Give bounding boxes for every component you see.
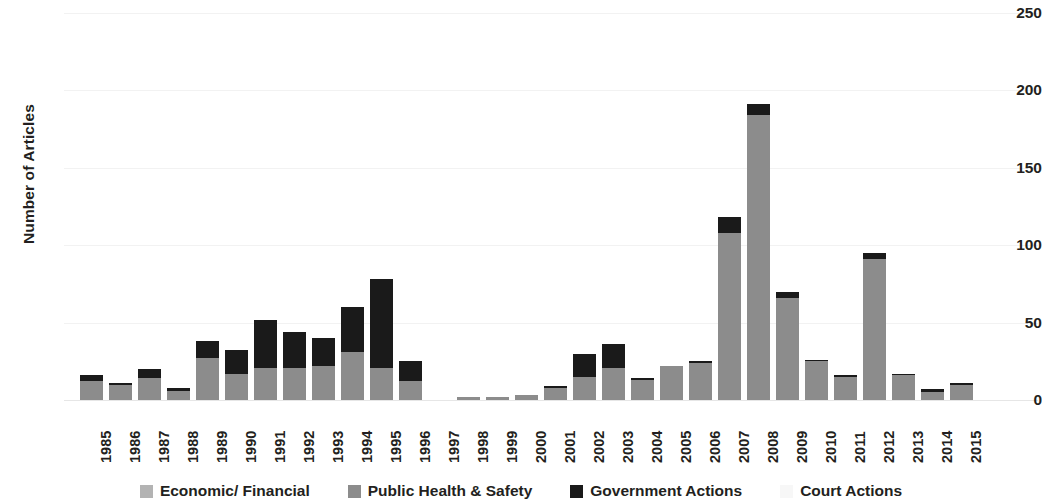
x-tick-label: 1995 <box>388 401 404 463</box>
bar-segment <box>747 115 770 400</box>
bar-segment <box>225 374 248 400</box>
x-tick-label: 2012 <box>881 401 897 463</box>
legend-item[interactable]: Economic/ Financial <box>140 482 310 500</box>
legend-item[interactable]: Court Actions <box>780 482 902 500</box>
bar-segment <box>370 368 393 401</box>
legend-label: Economic/ Financial <box>160 482 310 500</box>
bar-2009 <box>776 292 799 400</box>
bar-segment <box>950 385 973 400</box>
legend-item[interactable]: Public Health & Safety <box>348 482 533 500</box>
bar-segment <box>399 381 422 400</box>
bar-segment <box>602 344 625 367</box>
legend-item[interactable]: Government Actions <box>570 482 742 500</box>
bar-segment <box>457 397 480 400</box>
bar-segment <box>892 375 915 400</box>
bar-2010 <box>805 360 828 400</box>
bar-segment <box>283 368 306 401</box>
bar-1990 <box>225 350 248 400</box>
x-tick-label: 1992 <box>301 401 317 463</box>
x-tick-label: 2003 <box>620 401 636 463</box>
bar-2000 <box>515 395 538 400</box>
bar-segment <box>196 341 219 358</box>
x-tick-label: 2013 <box>910 401 926 463</box>
bar-1996 <box>399 361 422 400</box>
bar-2006 <box>689 361 712 400</box>
x-tick-label: 2009 <box>794 401 810 463</box>
legend-label: Public Health & Safety <box>368 482 533 500</box>
bar-segment <box>631 380 654 400</box>
bar-segment <box>283 332 306 368</box>
stacked-bar-chart: Number of Articles 050100150200250 19851… <box>0 0 1042 502</box>
bar-segment <box>660 366 683 400</box>
bar-segment <box>805 361 828 400</box>
bar-segment <box>254 368 277 401</box>
bar-1989 <box>196 341 219 400</box>
bar-segment <box>312 338 335 366</box>
bar-2005 <box>660 366 683 400</box>
bar-segment <box>196 358 219 400</box>
legend-swatch-icon <box>140 485 153 498</box>
legend-swatch-icon <box>780 485 793 498</box>
x-tick-label: 1998 <box>475 401 491 463</box>
bar-2015 <box>950 383 973 400</box>
bar-segment <box>515 395 538 400</box>
bar-1995 <box>370 279 393 400</box>
x-axis-tick-labels: 1985198619871988198919901991199219931994… <box>64 405 1038 467</box>
x-tick-label: 1997 <box>446 401 462 463</box>
bar-segment <box>254 320 277 368</box>
bar-segment <box>544 388 567 400</box>
x-tick-label: 2007 <box>736 401 752 463</box>
x-tick-label: 2002 <box>591 401 607 463</box>
x-tick-label: 1989 <box>214 401 230 463</box>
bar-2014 <box>921 389 944 400</box>
x-tick-label: 1987 <box>156 401 172 463</box>
x-tick-label: 2010 <box>823 401 839 463</box>
bar-segment <box>863 259 886 400</box>
bar-2012 <box>863 253 886 400</box>
bar-segment <box>834 377 857 400</box>
y-axis-title: Number of Articles <box>20 89 38 259</box>
bar-2007 <box>718 217 741 400</box>
bar-segment <box>138 369 161 378</box>
bar-2013 <box>892 374 915 400</box>
bar-1999 <box>486 397 509 400</box>
chart-legend: Economic/ FinancialPublic Health & Safet… <box>0 482 1042 500</box>
bar-segment <box>312 366 335 400</box>
bar-segment <box>689 363 712 400</box>
bar-segment <box>80 381 103 400</box>
x-tick-label: 1994 <box>359 401 375 463</box>
x-tick-label: 2004 <box>649 401 665 463</box>
legend-label: Court Actions <box>800 482 902 500</box>
x-tick-label: 1986 <box>127 401 143 463</box>
x-tick-label: 2014 <box>939 401 955 463</box>
bar-2011 <box>834 375 857 400</box>
x-tick-label: 2011 <box>852 401 868 463</box>
bar-1992 <box>283 332 306 400</box>
x-tick-label: 2015 <box>968 401 984 463</box>
x-tick-label: 1985 <box>98 401 114 463</box>
x-tick-label: 2000 <box>533 401 549 463</box>
bar-segment <box>341 352 364 400</box>
bar-2001 <box>544 386 567 400</box>
bar-segment <box>138 378 161 400</box>
x-tick-label: 2001 <box>562 401 578 463</box>
x-tick-label: 1991 <box>272 401 288 463</box>
bar-1993 <box>312 338 335 400</box>
bar-2004 <box>631 378 654 400</box>
bar-segment <box>341 307 364 352</box>
bar-1985 <box>80 375 103 400</box>
bar-1994 <box>341 307 364 400</box>
bar-2003 <box>602 344 625 400</box>
legend-label: Government Actions <box>590 482 742 500</box>
bar-segment <box>225 350 248 373</box>
bar-segment <box>399 361 422 381</box>
bar-1998 <box>457 397 480 400</box>
x-tick-label: 2005 <box>678 401 694 463</box>
bar-1986 <box>109 383 132 400</box>
x-tick-label: 1988 <box>185 401 201 463</box>
legend-swatch-icon <box>570 485 583 498</box>
legend-swatch-icon <box>348 485 361 498</box>
bar-segment <box>573 377 596 400</box>
bar-segment <box>776 298 799 400</box>
bar-2008 <box>747 104 770 400</box>
